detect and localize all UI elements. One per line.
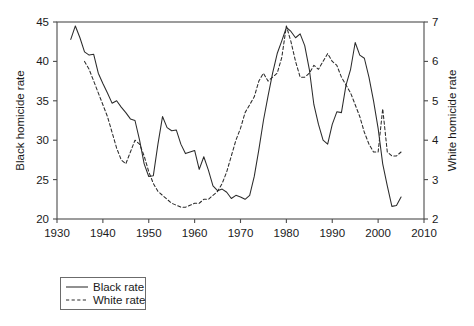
legend-label-white-rate: White rate [93, 294, 145, 306]
y-left-tick-label-40: 40 [36, 55, 49, 67]
x-tick-label-2000: 2000 [365, 227, 391, 239]
y-right-tick-label-5: 5 [432, 95, 438, 107]
y-right-tick-label-4: 4 [432, 134, 439, 146]
y-axis-left-title: Black homicide rate [14, 70, 26, 170]
x-tick-label-2010: 2010 [411, 227, 437, 239]
y-axis-right-title: White homicide rate [446, 70, 458, 172]
y-axis-right-ticks [424, 22, 428, 219]
y-left-tick-label-35: 35 [36, 95, 49, 107]
x-tick-label-1930: 1930 [44, 227, 70, 239]
x-tick-label-1980: 1980 [274, 227, 300, 239]
y-axis-left-tick-labels: 202530354045 [36, 16, 49, 225]
x-axis-tick-labels: 193019401950196019701980199020002010 [44, 227, 437, 239]
y-right-tick-label-2: 2 [432, 213, 438, 225]
x-tick-label-1950: 1950 [136, 227, 162, 239]
legend-label-black-rate: Black rate [93, 281, 144, 293]
y-right-tick-label-3: 3 [432, 174, 438, 186]
y-axis-left-ticks [53, 22, 57, 219]
y-left-tick-label-20: 20 [36, 213, 49, 225]
x-tick-label-1940: 1940 [90, 227, 116, 239]
x-axis-ticks [57, 219, 424, 223]
y-left-tick-label-30: 30 [36, 134, 49, 146]
y-left-tick-label-45: 45 [36, 16, 49, 28]
chart-container: 193019401950196019701980199020002010 202… [0, 0, 474, 326]
y-axis-right-tick-labels: 234567 [432, 16, 439, 225]
series-line-black-rate [71, 26, 401, 206]
plot-frame [57, 22, 424, 219]
y-left-tick-label-25: 25 [36, 174, 49, 186]
x-tick-label-1990: 1990 [319, 227, 345, 239]
x-tick-label-1970: 1970 [228, 227, 254, 239]
y-right-tick-label-7: 7 [432, 16, 438, 28]
chart-legend: Black rate White rate [61, 278, 146, 310]
homicide-rate-line-chart: 193019401950196019701980199020002010 202… [0, 0, 474, 326]
y-right-tick-label-6: 6 [432, 55, 438, 67]
data-series-group [71, 26, 401, 207]
x-tick-label-1960: 1960 [182, 227, 208, 239]
